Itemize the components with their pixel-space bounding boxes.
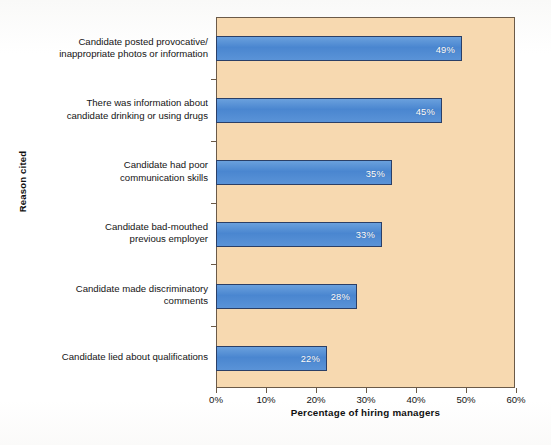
y-axis-tick: [211, 264, 216, 265]
x-axis-title: Percentage of hiring managers: [216, 407, 515, 418]
y-axis-title: Reason cited: [17, 134, 28, 230]
y-axis-tick: [211, 203, 216, 204]
category-label-line: Candidate posted provocative/: [30, 36, 208, 48]
x-axis-tick-label: 60%: [491, 394, 541, 405]
x-axis-tick: [316, 388, 317, 393]
x-axis-tick: [516, 388, 517, 393]
bar-value-label: 22%: [301, 353, 320, 364]
bar: 33%: [216, 222, 382, 247]
bar-value-label: 49%: [436, 43, 455, 54]
category-label: Candidate made discriminatorycomments: [30, 283, 208, 308]
x-axis-tick-label: 0%: [191, 394, 241, 405]
category-label-column: Candidate posted provocative/inappropria…: [30, 17, 208, 388]
x-axis-tick-label: 20%: [291, 394, 341, 405]
bar-chart: Reason cited Candidate posted provocativ…: [0, 0, 551, 445]
plot-area: 49%45%35%33%28%22%: [216, 17, 515, 388]
category-label-line: Candidate lied about qualifications: [30, 351, 208, 363]
bar: 22%: [216, 346, 327, 371]
category-label-line: There was information about: [30, 97, 208, 109]
bar-value-label: 35%: [366, 167, 385, 178]
y-axis-tick: [211, 326, 216, 327]
x-axis-tick: [216, 388, 217, 393]
category-label-line: Candidate had poor: [30, 159, 208, 171]
bar: 45%: [216, 98, 442, 123]
x-axis-tick: [266, 388, 267, 393]
category-label: Candidate bad-mouthedprevious employer: [30, 221, 208, 246]
category-label-line: communication skills: [30, 172, 208, 184]
category-label: Candidate posted provocative/inappropria…: [30, 36, 208, 61]
bar: 28%: [216, 284, 357, 309]
bar: 49%: [216, 36, 462, 61]
category-label-line: comments: [30, 295, 208, 307]
category-label-line: candidate drinking or using drugs: [30, 110, 208, 122]
x-axis-tick: [366, 388, 367, 393]
category-label-line: previous employer: [30, 233, 208, 245]
category-label: Candidate had poorcommunication skills: [30, 159, 208, 184]
x-axis-tick: [466, 388, 467, 393]
bar-value-label: 33%: [356, 229, 375, 240]
x-axis-tick-label: 30%: [341, 394, 391, 405]
category-label-line: inappropriate photos or information: [30, 48, 208, 60]
y-axis-tick: [211, 141, 216, 142]
category-label-line: Candidate made discriminatory: [30, 283, 208, 295]
x-axis-tick: [416, 388, 417, 393]
bar-value-label: 28%: [331, 291, 350, 302]
bar: 35%: [216, 160, 392, 185]
category-label: There was information aboutcandidate dri…: [30, 97, 208, 122]
x-axis-tick-label: 50%: [441, 394, 491, 405]
category-label: Candidate lied about qualifications: [30, 351, 208, 363]
bar-value-label: 45%: [416, 105, 435, 116]
category-label-line: Candidate bad-mouthed: [30, 221, 208, 233]
y-axis-tick: [211, 79, 216, 80]
x-axis-tick-label: 10%: [241, 394, 291, 405]
x-axis-tick-label: 40%: [391, 394, 441, 405]
